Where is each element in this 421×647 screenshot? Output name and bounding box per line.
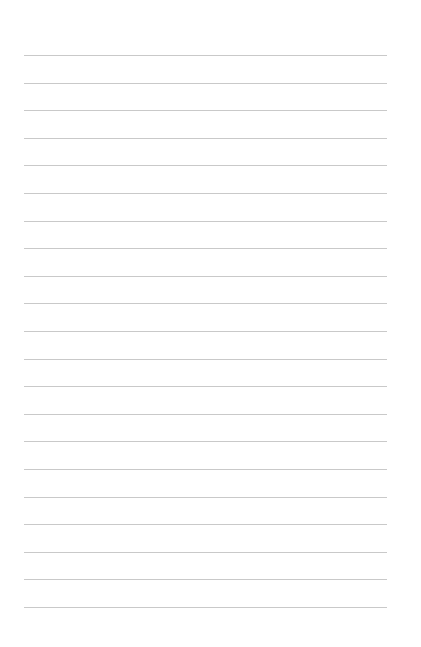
ruled-line xyxy=(24,138,387,139)
ruled-line xyxy=(24,303,387,304)
ruled-line xyxy=(24,386,387,387)
ruled-line xyxy=(24,110,387,111)
ruled-line xyxy=(24,55,387,56)
ruled-line xyxy=(24,165,387,166)
ruled-line xyxy=(24,441,387,442)
ruled-line xyxy=(24,607,387,608)
ruled-line xyxy=(24,497,387,498)
ruled-line xyxy=(24,359,387,360)
ruled-line xyxy=(24,552,387,553)
ruled-line xyxy=(24,248,387,249)
ruled-line xyxy=(24,524,387,525)
ruled-line xyxy=(24,469,387,470)
ruled-line xyxy=(24,579,387,580)
lined-paper-page xyxy=(0,0,421,647)
ruled-line xyxy=(24,276,387,277)
ruled-line xyxy=(24,221,387,222)
ruled-line xyxy=(24,193,387,194)
ruled-line xyxy=(24,331,387,332)
ruled-line xyxy=(24,83,387,84)
ruled-line xyxy=(24,414,387,415)
